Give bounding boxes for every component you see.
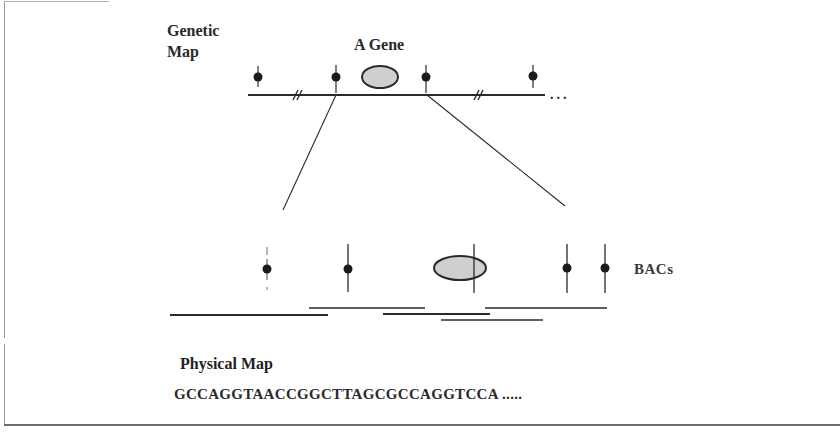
continuation-dots: ...: [550, 87, 570, 102]
genetic-physical-map-diagram: ...: [0, 0, 840, 432]
genetic-marker-icon: [529, 65, 538, 88]
genetic-map: ...: [248, 65, 570, 102]
bac-marker-icon: [344, 244, 353, 292]
bac-clones: [170, 308, 607, 320]
gene-oval-icon: [362, 66, 398, 88]
zoom-line-right: [427, 95, 565, 206]
bac-marker-icon: [563, 244, 572, 293]
genetic-marker-icon: [332, 65, 341, 93]
zoom-line-left: [283, 95, 336, 210]
genetic-marker-icon: [422, 65, 431, 93]
bac-marker-icon: [601, 244, 610, 293]
physical-region: [170, 244, 610, 320]
bac-marker-icon: [263, 247, 272, 290]
gene-oval-icon: [434, 256, 486, 280]
zoom-lines: [283, 95, 565, 210]
genetic-marker-icon: [254, 66, 263, 87]
